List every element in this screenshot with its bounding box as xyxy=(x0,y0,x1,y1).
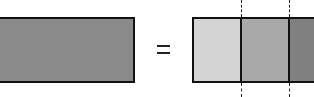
dashed-guide-2-top xyxy=(289,0,290,17)
dashed-guide-1-bottom xyxy=(241,83,242,97)
dashed-guide-2-bottom xyxy=(289,83,290,97)
equals-bottom-line xyxy=(157,52,170,54)
part-1 xyxy=(192,17,242,83)
whole-bar xyxy=(0,17,135,83)
part-3 xyxy=(290,17,314,83)
equals-top-line xyxy=(157,45,170,47)
divider-1 xyxy=(240,17,242,83)
divider-2 xyxy=(288,17,290,83)
part-2 xyxy=(242,17,290,83)
dashed-guide-1-top xyxy=(241,0,242,17)
